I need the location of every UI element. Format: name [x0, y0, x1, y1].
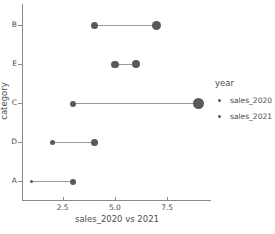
- data-point-D-sales_2021: [91, 139, 98, 146]
- y-axis-line: [22, 4, 23, 201]
- data-point-A-sales_2020: [30, 180, 33, 183]
- legend: year sales_2020sales_2021: [213, 78, 275, 126]
- data-point-E-sales_2020: [111, 61, 119, 69]
- x-tick-label-2.5: 2.5: [51, 203, 75, 212]
- data-point-A-sales_2021: [70, 179, 76, 185]
- y-tick-label-D: D: [0, 138, 17, 146]
- connector-line-A: [31, 181, 73, 182]
- data-point-B-sales_2020: [91, 22, 98, 29]
- y-tick-label-B: B: [0, 21, 17, 29]
- x-tick-label-7.5: 7.5: [155, 203, 179, 212]
- data-point-E-sales_2021: [132, 60, 140, 68]
- y-tick-D: [18, 142, 22, 143]
- y-tick-C: [18, 103, 22, 104]
- y-tick-A: [18, 181, 22, 182]
- legend-marker-icon: [213, 115, 225, 118]
- x-tick-label-5.0: 5.0: [103, 203, 127, 212]
- connector-line-B: [94, 25, 157, 26]
- connector-line-C: [73, 103, 198, 104]
- y-tick-label-E: E: [0, 60, 17, 68]
- x-tick-5.0: [115, 197, 116, 201]
- legend-label: sales_2020: [230, 96, 272, 105]
- legend-items: sales_2020sales_2021: [213, 94, 275, 123]
- y-axis-title: category: [0, 71, 9, 131]
- data-point-B-sales_2021: [152, 21, 161, 30]
- y-tick-B: [18, 25, 22, 26]
- data-point-C-sales_2021: [193, 98, 204, 109]
- legend-item-sales_2021[interactable]: sales_2021: [213, 110, 275, 123]
- x-axis-line: [22, 200, 211, 201]
- x-tick-7.5: [167, 197, 168, 201]
- x-axis-title: sales_2020 vs 2021: [23, 214, 211, 224]
- connector-line-D: [52, 142, 94, 143]
- y-tick-label-A: A: [0, 177, 17, 185]
- y-tick-E: [18, 64, 22, 65]
- chart-root: BECDA 2.55.07.5 sales_2020 vs 2021 categ…: [0, 0, 275, 234]
- data-point-D-sales_2020: [50, 140, 55, 145]
- legend-marker-icon: [213, 99, 225, 102]
- x-tick-2.5: [63, 197, 64, 201]
- data-point-C-sales_2020: [70, 101, 76, 107]
- legend-label: sales_2021: [230, 112, 272, 121]
- legend-item-sales_2020[interactable]: sales_2020: [213, 94, 275, 107]
- legend-title: year: [215, 78, 275, 88]
